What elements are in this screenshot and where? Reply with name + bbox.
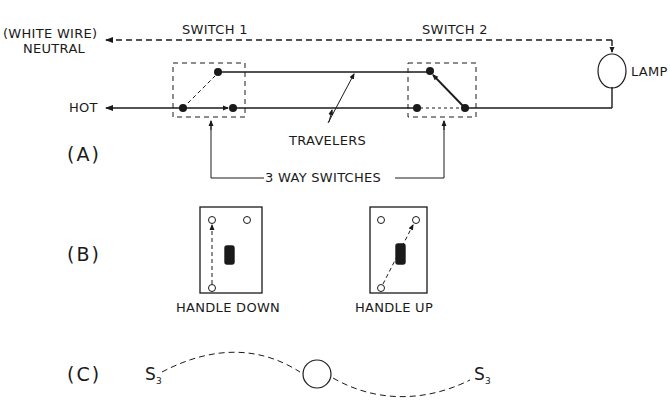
plate-handle-up <box>370 207 427 293</box>
switch-symbol-right-sub: 3 <box>485 376 491 386</box>
plate-handle-down <box>200 207 262 293</box>
traveler-wires <box>218 72 430 123</box>
three-way-label: 3 WAY SWITCHES <box>265 170 381 185</box>
switch-symbol-right: S3 <box>474 364 491 384</box>
travelers-label: TRAVELERS <box>289 133 366 148</box>
terminal-dots <box>179 67 469 112</box>
lamp <box>465 54 626 108</box>
neutral-label-line2: NEUTRAL <box>23 41 85 56</box>
section-c-label: (C) <box>67 363 101 385</box>
switch-symbol-left: S3 <box>145 364 162 384</box>
section-a-label: (A) <box>67 143 101 165</box>
handle-down-caption: HANDLE DOWN <box>176 300 280 315</box>
plan-symbol-circuit <box>162 352 470 396</box>
neutral-label-line1: (WHITE WIRE) <box>3 26 97 41</box>
switch-2-label: SWITCH 2 <box>422 22 488 37</box>
handle-up-caption: HANDLE UP <box>355 300 433 315</box>
switch-symbol-left-sub: 3 <box>156 376 162 386</box>
hot-label: HOT <box>69 100 98 115</box>
section-b-label: (B) <box>67 243 101 265</box>
switch-symbol-right-letter: S <box>474 364 485 384</box>
switch-symbol-left-letter: S <box>145 364 156 384</box>
neutral-wire <box>106 40 612 52</box>
lamp-label: LAMP <box>631 64 668 79</box>
wiring-diagram <box>0 0 670 403</box>
switch-1-label: SWITCH 1 <box>182 22 248 37</box>
